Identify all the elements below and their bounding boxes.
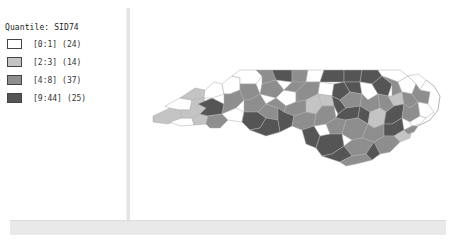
choropleth-map xyxy=(130,0,450,218)
legend-item-class-3[interactable]: [4:8] (37) xyxy=(7,74,81,86)
legend-swatch xyxy=(7,93,22,103)
legend-swatch xyxy=(7,75,22,85)
legend-item-class-4[interactable]: [9:44] (25) xyxy=(7,92,86,104)
legend-panel: Quantile: SID74 [0:1] (24) [2:3] (14) [4… xyxy=(0,0,127,218)
legend-swatch xyxy=(7,57,22,67)
legend-count: (25) xyxy=(67,94,86,103)
legend-range: [9:44] xyxy=(33,94,62,103)
legend-item-class-1[interactable]: [0:1] (24) xyxy=(7,38,81,50)
legend-count: (14) xyxy=(62,58,81,67)
legend-title: Quantile: SID74 xyxy=(5,23,79,32)
legend-range: [0:1] xyxy=(33,40,57,49)
legend-count: (24) xyxy=(62,40,81,49)
legend-item-class-2[interactable]: [2:3] (14) xyxy=(7,56,81,68)
status-bar xyxy=(10,220,446,235)
map-canvas[interactable] xyxy=(130,0,450,218)
legend-swatch xyxy=(7,39,22,49)
legend-range: [4:8] xyxy=(33,76,57,85)
legend-count: (37) xyxy=(62,76,81,85)
legend-range: [2:3] xyxy=(33,58,57,67)
